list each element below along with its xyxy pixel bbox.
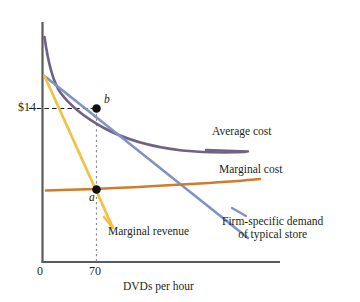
average-cost-leader-line xyxy=(206,150,248,152)
marginal-revenue-label: Marginal revenue xyxy=(108,225,189,238)
point-b-marker xyxy=(92,104,101,113)
chart-plot-area xyxy=(0,0,360,302)
x-axis-tick-label-0: 0 xyxy=(37,265,43,278)
x-axis-title: DVDs per hour xyxy=(123,280,194,293)
demand-label-line1: Firm-specific demand xyxy=(222,215,323,228)
demand-curve xyxy=(45,76,249,238)
marginal-cost-label: Marginal cost xyxy=(219,163,282,176)
marginal-revenue-curve xyxy=(45,76,114,228)
demand-label: Firm-specific demand of typical store xyxy=(222,215,323,241)
marginal-cost-curve xyxy=(46,179,260,191)
average-cost-label: Average cost xyxy=(212,125,272,138)
point-a-label: a xyxy=(89,191,95,204)
y-axis-tick-label-14: $14 xyxy=(18,101,36,114)
point-b-label: b xyxy=(104,93,110,106)
demand-label-line2: of typical store xyxy=(222,228,323,241)
x-axis-tick-label-70: 70 xyxy=(89,265,101,278)
chart-figure: $14 0 70 b a Average cost Marginal cost … xyxy=(0,0,360,302)
